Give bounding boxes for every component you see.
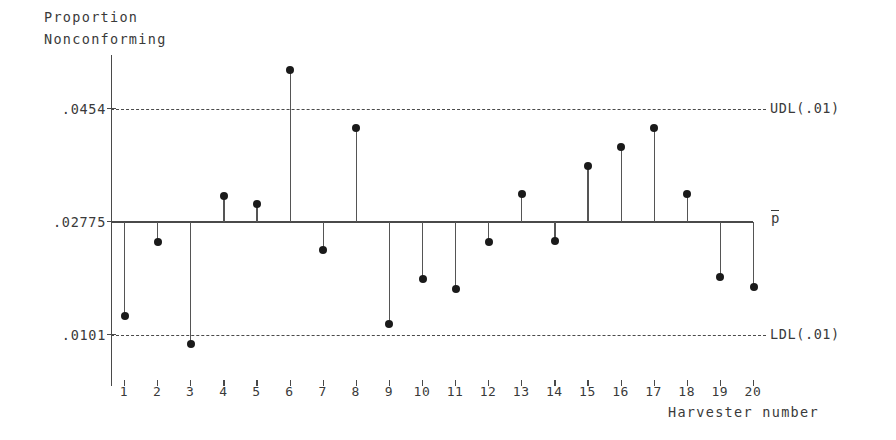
data-point-marker [617, 143, 625, 151]
x-tick-label: 7 [311, 384, 335, 399]
x-tick-label: 12 [476, 384, 500, 399]
x-tick-label: 13 [509, 384, 533, 399]
data-point-marker [286, 66, 294, 74]
data-point-marker [683, 190, 691, 198]
y-tick-mark-center [107, 221, 116, 222]
x-tick-label: 16 [609, 384, 633, 399]
data-point-marker [121, 312, 129, 320]
data-point-marker [419, 275, 427, 283]
data-point-stem [720, 222, 721, 277]
x-tick-label: 11 [443, 384, 467, 399]
x-tick-label: 1 [112, 384, 136, 399]
y-tick-mark-udl [107, 108, 116, 109]
data-point-stem [124, 222, 125, 316]
data-point-marker [716, 273, 724, 281]
data-point-stem [356, 128, 357, 222]
x-tick-label: 9 [377, 384, 401, 399]
data-point-marker [385, 320, 393, 328]
data-point-marker [518, 190, 526, 198]
center-line [111, 221, 753, 223]
data-point-stem [687, 194, 688, 222]
data-point-marker [220, 192, 228, 200]
data-point-stem [389, 222, 390, 324]
x-tick-label: 19 [708, 384, 732, 399]
data-point-marker [650, 124, 658, 132]
data-point-stem [621, 147, 622, 222]
data-point-stem [290, 70, 291, 222]
x-tick-label: 14 [542, 384, 566, 399]
center-line-label: p [771, 210, 779, 226]
x-tick-label: 2 [145, 384, 169, 399]
data-point-stem [753, 222, 754, 287]
p-chart-figure: ProportionNonconforming .0454 .02775 .01… [0, 0, 896, 440]
data-point-stem [587, 166, 588, 222]
x-axis-title: Harvester number [668, 404, 819, 420]
x-tick-label: 18 [675, 384, 699, 399]
y-tick-mark-ldl [107, 334, 116, 335]
y-axis-title-line-2: Nonconforming [44, 31, 167, 47]
data-point-marker [187, 340, 195, 348]
y-tick-label-udl: .0454 [20, 101, 106, 117]
data-point-marker [551, 237, 559, 245]
data-point-marker [584, 162, 592, 170]
data-point-marker [253, 200, 261, 208]
udl-label: UDL(.01) [770, 100, 840, 116]
data-point-stem [455, 222, 456, 289]
data-point-stem [190, 222, 191, 344]
ldl-label: LDL(.01) [770, 326, 840, 342]
x-tick-label: 4 [211, 384, 235, 399]
y-tick-label-ldl: .0101 [20, 327, 106, 343]
y-axis-title: ProportionNonconforming [44, 6, 167, 50]
data-point-marker [750, 283, 758, 291]
x-tick-label: 6 [278, 384, 302, 399]
upper-decision-limit-line [111, 109, 766, 110]
x-tick-label: 10 [410, 384, 434, 399]
x-tick-label: 3 [178, 384, 202, 399]
data-point-stem [521, 194, 522, 222]
data-point-marker [485, 238, 493, 246]
data-point-stem [422, 222, 423, 279]
data-point-marker [352, 124, 360, 132]
data-point-marker [452, 285, 460, 293]
y-axis-title-line-1: Proportion [44, 9, 138, 25]
x-tick-label: 20 [741, 384, 765, 399]
y-tick-label-center: .02775 [20, 214, 106, 230]
x-tick-label: 8 [344, 384, 368, 399]
lower-decision-limit-line [111, 335, 766, 336]
data-point-stem [654, 128, 655, 222]
data-point-marker [319, 246, 327, 254]
data-point-marker [154, 238, 162, 246]
x-tick-label: 17 [642, 384, 666, 399]
x-tick-label: 15 [575, 384, 599, 399]
center-line-label-text: p [771, 210, 779, 225]
x-tick-label: 5 [244, 384, 268, 399]
